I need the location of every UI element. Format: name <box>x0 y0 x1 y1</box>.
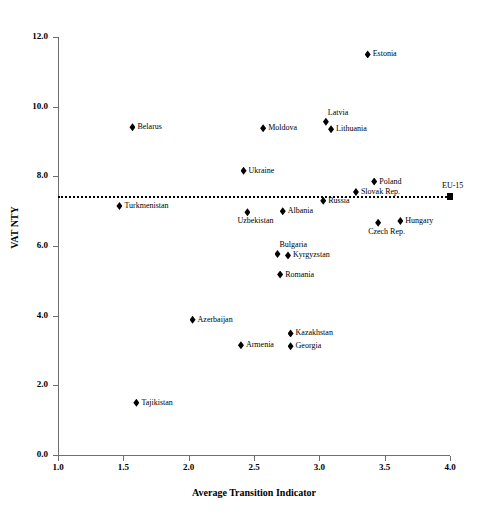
data-point-label: Turkmenistan <box>124 202 168 210</box>
y-tick-label: 8.0 <box>16 171 48 180</box>
diamond-marker-icon <box>244 208 250 216</box>
diamond-marker-icon <box>238 341 244 349</box>
y-tick-label: 4.0 <box>16 311 48 320</box>
data-point-label: Kyrgyzstan <box>293 251 330 259</box>
x-tick-label: 3.5 <box>368 462 402 472</box>
x-tick-mark <box>385 456 386 461</box>
x-tick-label: 2.5 <box>237 462 271 472</box>
data-point-label: Czech Rep. <box>368 228 405 236</box>
data-point-label: Georgia <box>296 342 322 350</box>
data-point-label: Latvia <box>328 109 348 117</box>
data-point-label: Uzbekistan <box>237 217 273 225</box>
eu15-reference-line <box>58 196 450 198</box>
diamond-marker-icon <box>323 118 329 126</box>
data-point-label: Moldova <box>268 124 297 132</box>
x-axis-title: Average Transition Indicator <box>58 487 450 498</box>
data-point-label: EU-15 <box>442 182 463 190</box>
x-tick-mark <box>319 456 320 461</box>
data-point-label: Kazakhstan <box>296 329 333 337</box>
scatter-chart-figure: 0.02.04.06.08.010.012.0 1.01.52.02.53.03… <box>0 0 482 532</box>
x-tick-mark <box>254 456 255 461</box>
data-point-label: Belarus <box>137 123 161 131</box>
diamond-marker-icon <box>116 202 122 210</box>
x-tick-label: 3.0 <box>302 462 336 472</box>
diamond-marker-icon <box>133 399 139 407</box>
y-tick-label: 2.0 <box>16 380 48 389</box>
data-point-label: Hungary <box>405 217 433 225</box>
data-point-label: Albania <box>288 207 313 215</box>
data-point-label: Lithuania <box>336 125 367 133</box>
diamond-marker-icon <box>241 167 247 175</box>
data-point-label: Romania <box>285 271 314 279</box>
data-point-label: Bulgaria <box>280 241 308 249</box>
x-tick-label: 1.0 <box>41 462 75 472</box>
y-tick-label: 0.0 <box>16 450 48 459</box>
diamond-marker-icon <box>260 124 266 132</box>
data-point-label: Estonia <box>373 50 397 58</box>
square-marker-icon <box>447 193 453 200</box>
x-tick-mark <box>58 456 59 461</box>
diamond-marker-icon <box>375 219 381 227</box>
diamond-marker-icon <box>288 342 294 350</box>
x-tick-label: 2.0 <box>172 462 206 472</box>
diamond-marker-icon <box>371 178 377 186</box>
data-point-label: Ukraine <box>249 167 275 175</box>
diamond-marker-icon <box>353 188 359 196</box>
diamond-marker-icon <box>285 251 291 259</box>
diamond-marker-icon <box>275 250 281 258</box>
diamond-marker-icon <box>129 123 135 131</box>
y-tick-label: 6.0 <box>16 241 48 250</box>
x-tick-mark <box>189 456 190 461</box>
data-point-label: Russia <box>328 197 349 205</box>
diamond-marker-icon <box>280 207 286 215</box>
data-point-label: Armenia <box>246 341 274 349</box>
y-axis-title: VAT NTY <box>9 178 20 278</box>
x-tick-label: 1.5 <box>106 462 140 472</box>
x-tick-mark <box>450 456 451 461</box>
data-point-label: Azerbaijan <box>198 316 233 324</box>
data-point-label: Tajikistan <box>141 399 172 407</box>
data-point-label: Poland <box>379 178 401 186</box>
x-tick-mark <box>123 456 124 461</box>
diamond-marker-icon <box>288 329 294 337</box>
diamond-marker-icon <box>277 271 283 279</box>
plot-area: EstoniaBelarusMoldovaLatviaLithuaniaUkra… <box>58 37 450 455</box>
diamond-marker-icon <box>190 316 196 324</box>
diamond-marker-icon <box>397 217 403 225</box>
x-tick-label: 4.0 <box>433 462 467 472</box>
data-point-label: Slovak Rep. <box>361 188 400 196</box>
diamond-marker-icon <box>365 50 371 58</box>
y-tick-label: 12.0 <box>16 32 48 41</box>
diamond-marker-icon <box>328 125 334 133</box>
y-tick-label: 10.0 <box>16 102 48 111</box>
